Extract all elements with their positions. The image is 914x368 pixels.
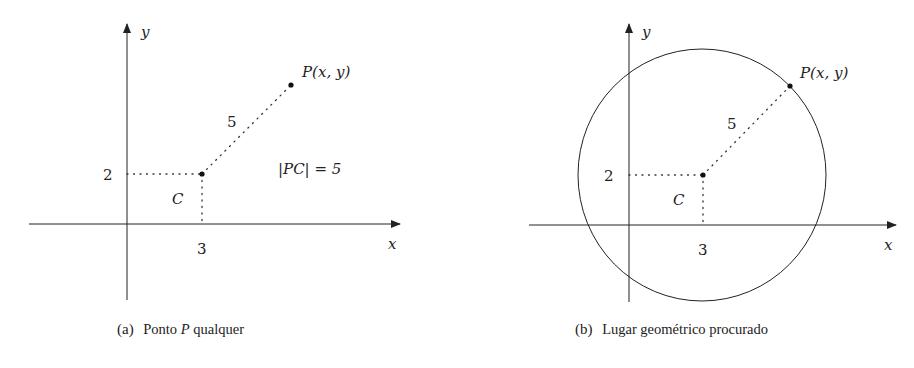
- panel-b-caption-text: Lugar geométrico procurado: [602, 321, 768, 337]
- panel-b-tick-y: 2: [604, 169, 614, 184]
- panel-b-distance-label: 5: [727, 117, 737, 132]
- panel-a-caption-pre: Ponto: [143, 321, 177, 337]
- panel-a-caption-tag: (a): [117, 321, 134, 337]
- panel-a-x-axis-label: x: [388, 237, 396, 252]
- panel-b-caption: (b) Lugar geométrico procurado: [575, 321, 768, 338]
- panel-a-tick-x: 3: [197, 242, 207, 257]
- panel-a-point-label: P(x, y): [302, 65, 350, 80]
- figure-graphics: [0, 0, 914, 368]
- panel-b-x-axis-label: x: [884, 238, 892, 253]
- panel-a-distance-label: 5: [227, 115, 237, 130]
- panel-a-point-p: [288, 82, 293, 87]
- panel-b-radius-segment: [703, 86, 790, 175]
- panel-b-center-label: C: [673, 193, 684, 208]
- panel-b-center-point: [700, 172, 705, 177]
- panel-b-caption-tag: (b): [575, 321, 593, 337]
- panel-b-tick-x: 3: [698, 243, 708, 258]
- panel-a-center-point: [199, 171, 204, 176]
- panel-a-caption-post: qualquer: [193, 321, 244, 337]
- panel-b-y-axis-label: y: [642, 25, 650, 40]
- figure-canvas: y x 2 3 C P(x, y) 5 |PC| = 5 (a) Ponto P…: [0, 0, 914, 368]
- panel-a-caption-var: P: [181, 321, 190, 337]
- panel-a-center-label: C: [172, 192, 183, 207]
- panel-a-y-axis-label: y: [141, 25, 149, 40]
- panel-b-point-label: P(x, y): [800, 66, 848, 81]
- panel-a-relation: |PC| = 5: [278, 162, 341, 177]
- panel-b-point-p: [787, 83, 792, 88]
- panel-a-tick-y: 2: [103, 168, 113, 183]
- panel-a-caption: (a) Ponto P qualquer: [117, 321, 244, 338]
